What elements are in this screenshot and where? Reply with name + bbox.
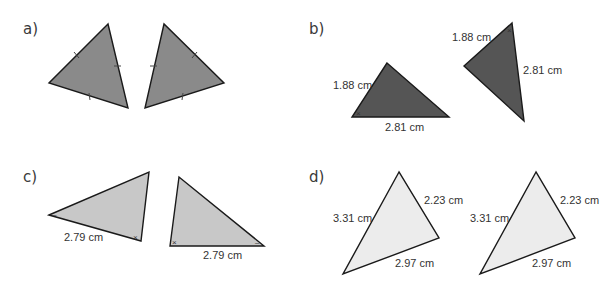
angle-mark: × (507, 26, 512, 35)
angle-mark: × (133, 233, 138, 242)
panel-c: c) – × × – 2.79 cm 2.79 cm (23, 168, 264, 261)
angle-mark: × (172, 238, 177, 247)
panel-a: a) (23, 20, 224, 108)
angle-mark: – (255, 238, 260, 247)
side-label: 2.81 cm (385, 121, 424, 133)
side-label: 1.88 cm (452, 31, 491, 43)
side-label: 1.88 cm (333, 79, 372, 91)
side-label: 2.23 cm (560, 194, 599, 206)
panel-label-a: a) (23, 20, 38, 38)
side-label: 3.31 cm (470, 212, 509, 224)
panel-d: d) 3.31 cm 2.23 cm 2.97 cm 3.31 cm 2.23 … (309, 168, 599, 274)
panel-label-b: b) (309, 20, 324, 38)
side-label: 2.97 cm (532, 257, 571, 269)
side-label: 2.23 cm (424, 194, 463, 206)
panel-b: b) × × 1.88 cm 2.81 cm 1.88 cm 2.81 cm (309, 20, 562, 133)
side-label: 2.97 cm (395, 257, 434, 269)
panel-label-d: d) (309, 168, 324, 186)
side-label: 3.31 cm (333, 212, 372, 224)
angle-mark: – (52, 210, 57, 219)
congruent-triangles-figure: a) b) × × 1.88 cm 2.81 cm 1.88 cm 2.81 c… (0, 0, 614, 282)
side-label: 2.81 cm (523, 64, 562, 76)
triangle-c-right (170, 177, 264, 246)
side-label: 2.79 cm (64, 231, 103, 243)
side-label: 2.79 cm (203, 249, 242, 261)
panel-label-c: c) (23, 168, 37, 186)
angle-mark: × (356, 109, 361, 118)
